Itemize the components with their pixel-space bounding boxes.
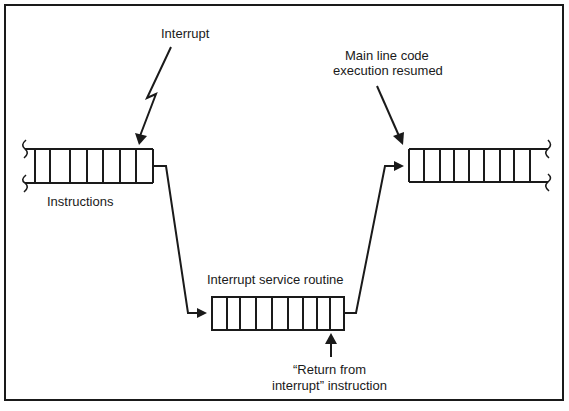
interrupt-label: Interrupt — [161, 26, 210, 41]
resumed-label-line1: Main line code — [345, 48, 429, 63]
return-arrowhead-icon — [325, 333, 337, 344]
isr-label: Interrupt service routine — [207, 272, 344, 287]
interrupt-diagram: Interrupt Instructions Interrupt service… — [0, 0, 569, 411]
instructions-label: Instructions — [47, 194, 114, 209]
interrupt-arrowhead-icon — [135, 133, 147, 145]
resumed-label-line2: execution resumed — [333, 63, 443, 78]
resumed-strip — [409, 140, 551, 191]
return-label-line2: interrupt” instruction — [272, 378, 387, 393]
break-mark-icon — [23, 175, 28, 192]
jump-to-isr-connector — [153, 166, 205, 313]
return-label-line1: “Return from — [293, 362, 366, 377]
instructions-strip — [23, 140, 153, 192]
resumed-arrow-shaft — [377, 86, 399, 136]
isr-strip — [212, 297, 344, 330]
break-mark-icon — [546, 174, 551, 191]
lightning-bolt-icon — [140, 47, 171, 136]
return-to-main-connector — [344, 166, 402, 313]
